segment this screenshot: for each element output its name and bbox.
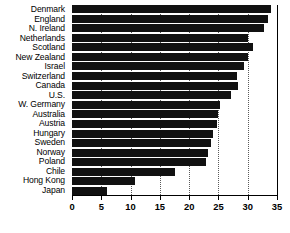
- bar-row: [72, 130, 277, 138]
- bar: [72, 43, 253, 51]
- bar-row: [72, 53, 277, 61]
- axis-tick-label: 15: [155, 201, 165, 212]
- bar-row: [72, 82, 277, 90]
- bar-row: [72, 62, 277, 70]
- bar: [72, 187, 107, 195]
- bar: [72, 177, 135, 185]
- bar-row: [72, 158, 277, 166]
- bar: [72, 53, 248, 61]
- bar-row: [72, 101, 277, 109]
- category-label: W. Germany: [0, 100, 68, 109]
- bar: [72, 62, 244, 70]
- category-label: Canada: [0, 81, 68, 90]
- bar: [72, 15, 268, 23]
- bar: [72, 82, 238, 90]
- bar-row: [72, 120, 277, 128]
- axis-tick-mark: [160, 196, 161, 200]
- bar: [72, 5, 271, 13]
- axis-tick-label: 5: [99, 201, 104, 212]
- axis-tick-mark: [131, 196, 132, 200]
- bar-row: [72, 187, 277, 195]
- category-label: Israel: [0, 62, 68, 71]
- bar: [72, 120, 217, 128]
- category-label: Japan: [0, 186, 68, 195]
- axis-tick-label: 10: [125, 201, 135, 212]
- axis-tick-mark: [189, 196, 190, 200]
- bar-row: [72, 24, 277, 32]
- bar: [72, 168, 175, 176]
- category-label: Hong Kong: [0, 176, 68, 185]
- bars-container: [72, 5, 277, 195]
- axis-tick-mark: [277, 196, 278, 200]
- bar: [72, 101, 220, 109]
- axis-tick-label: 35: [272, 201, 282, 212]
- plot-area: [72, 5, 278, 196]
- bar: [72, 158, 206, 166]
- bar-row: [72, 177, 277, 185]
- bar-row: [72, 168, 277, 176]
- category-axis-labels: DenmarkEnglandN. IrelandNetherlandsScotl…: [0, 5, 68, 195]
- axis-tick-mark: [101, 196, 102, 200]
- axis-tick-label: 0: [69, 201, 74, 212]
- bar-chart: DenmarkEnglandN. IrelandNetherlandsScotl…: [0, 0, 290, 233]
- axis-tick-mark: [218, 196, 219, 200]
- bar: [72, 34, 248, 42]
- category-label: Denmark: [0, 5, 68, 14]
- bar-row: [72, 149, 277, 157]
- category-label: Austria: [0, 119, 68, 128]
- bar: [72, 139, 211, 147]
- bar-row: [72, 34, 277, 42]
- bar: [72, 24, 264, 32]
- bar-row: [72, 110, 277, 118]
- axis-tick-mark: [248, 196, 249, 200]
- axis-tick-mark: [72, 196, 73, 200]
- bar-row: [72, 91, 277, 99]
- axis-tick-label: 20: [184, 201, 194, 212]
- category-label: Sweden: [0, 138, 68, 147]
- bar: [72, 149, 208, 157]
- bar-row: [72, 5, 277, 13]
- bar-row: [72, 139, 277, 147]
- bar: [72, 72, 237, 80]
- bar-row: [72, 72, 277, 80]
- category-label: Poland: [0, 157, 68, 166]
- bar: [72, 110, 218, 118]
- axis-tick-label: 25: [213, 201, 223, 212]
- value-axis: 05101520253035: [72, 196, 277, 226]
- axis-tick-label: 30: [242, 201, 252, 212]
- bar: [72, 91, 231, 99]
- bar-row: [72, 43, 277, 51]
- bar: [72, 130, 213, 138]
- category-label: N. Ireland: [0, 24, 68, 33]
- category-label: Scotland: [0, 43, 68, 52]
- bar-row: [72, 15, 277, 23]
